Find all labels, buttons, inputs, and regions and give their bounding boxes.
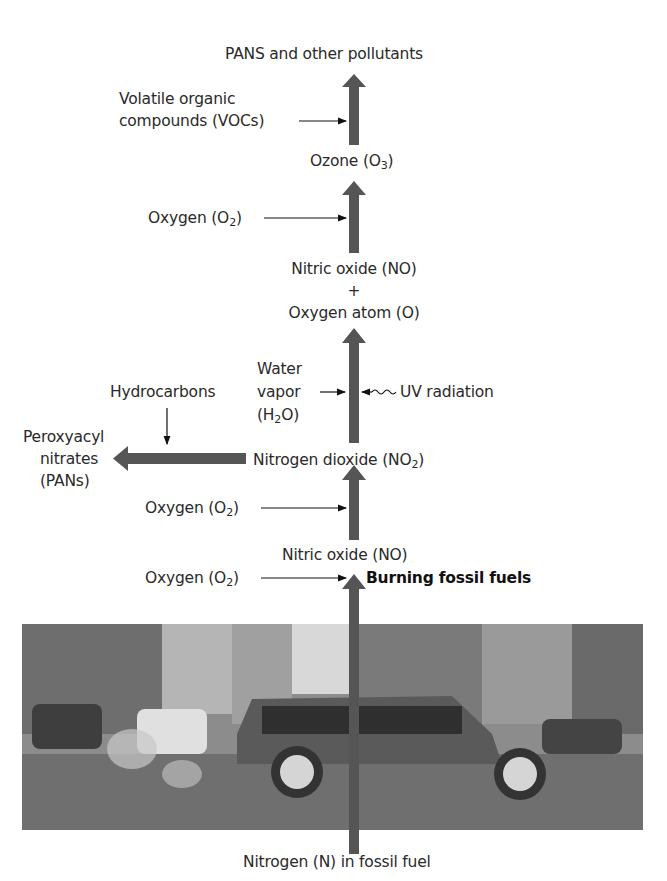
main-arrow-no-to-no2	[342, 465, 366, 540]
node-nitrogen-dioxide: Nitrogen dioxide (NO2)	[253, 451, 424, 470]
node-ozone: Ozone (O3)	[310, 152, 393, 171]
input-oxygen-lower: Oxygen (O2)	[145, 569, 239, 588]
uv-wave-icon	[372, 390, 396, 394]
node-pans-other-pollutants: PANS and other pollutants	[225, 45, 423, 64]
input-oxygen-upper: Oxygen (O2)	[148, 209, 242, 228]
main-arrow-no2-to-no	[342, 328, 366, 443]
label-burning-fossil-fuels: Burning fossil fuels	[366, 569, 531, 588]
input-water-line1: Water	[257, 360, 302, 379]
node-pans-line3: (PANs)	[40, 472, 90, 491]
node-plus-sign: +	[254, 282, 454, 301]
city-street-photo	[22, 624, 643, 830]
node-pans-line1: Peroxyacyl	[23, 428, 104, 447]
node-nitrogen-in-fossil-fuel: Nitrogen (N) in fossil fuel	[243, 853, 431, 872]
input-uv-radiation: UV radiation	[400, 383, 494, 402]
main-arrow-shaft-through-photo	[349, 624, 359, 830]
node-nitric-oxide: Nitric oxide (NO)	[282, 546, 407, 565]
input-oxygen-middle: Oxygen (O2)	[145, 499, 239, 518]
input-water-line2: vapor	[257, 383, 300, 402]
input-vocs-line1: Volatile organic	[119, 90, 235, 109]
input-water-line3: (H2O)	[257, 406, 299, 425]
main-arrow-no-to-ozone	[342, 181, 366, 253]
main-arrow-no2-to-pans	[113, 446, 246, 471]
input-vocs-line2: compounds (VOCs)	[119, 112, 264, 131]
node-nitric-oxide-plus-line1: Nitric oxide (NO)	[254, 260, 454, 279]
node-pans-line2: nitrates	[40, 450, 98, 469]
main-arrow-ozone-to-pans	[342, 74, 366, 145]
input-hydrocarbons: Hydrocarbons	[110, 383, 215, 402]
node-oxygen-atom: Oxygen atom (O)	[254, 304, 454, 323]
